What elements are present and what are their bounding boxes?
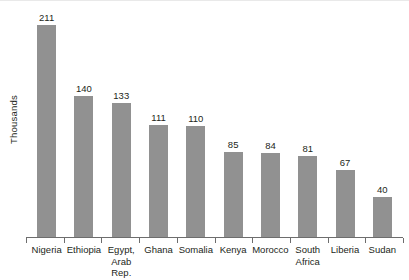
bar-rect[interactable] [373, 197, 392, 237]
x-axis-tick [365, 238, 366, 243]
x-axis-category-label: South Africa [289, 244, 326, 279]
bar-slot[interactable]: 133 [103, 1, 140, 237]
bar-slot[interactable]: 67 [326, 1, 363, 237]
bar-slot[interactable]: 85 [214, 1, 251, 237]
bar-rect[interactable] [37, 25, 56, 237]
x-axis-tick [139, 238, 140, 243]
x-axis-category-label: Nigeria [28, 244, 65, 279]
bar-chart-figure: Thousands 2111401331111108584816740 Nige… [0, 0, 409, 280]
x-axis-tick [290, 238, 291, 243]
bar-rect[interactable] [74, 96, 93, 237]
x-axis-tick [101, 238, 102, 243]
bar-rect[interactable] [298, 156, 317, 237]
x-axis-ticks [26, 238, 403, 243]
bar-value-label: 111 [151, 112, 165, 123]
x-axis-category-label: Morocco [252, 244, 289, 279]
x-axis-tick [252, 238, 253, 243]
bar-rect[interactable] [261, 153, 280, 237]
bar-slot[interactable]: 111 [140, 1, 177, 237]
x-axis-category-label: Kenya [214, 244, 251, 279]
x-axis-category-label: Somalia [177, 244, 214, 279]
bar-value-label: 81 [302, 143, 313, 154]
bar-slot[interactable]: 140 [65, 1, 102, 237]
x-axis-tick [215, 238, 216, 243]
y-axis-title-label: Thousands [8, 95, 19, 144]
bar-value-label: 40 [377, 184, 388, 195]
x-axis-tick [328, 238, 329, 243]
x-axis-tick [177, 238, 178, 243]
bar-slot[interactable]: 110 [177, 1, 214, 237]
x-axis-category-label: Ethiopia [65, 244, 102, 279]
x-axis-category-label: Sudan [364, 244, 401, 279]
bar-slot[interactable]: 40 [364, 1, 401, 237]
bars-row: 2111401331111108584816740 [26, 1, 403, 237]
bar-rect[interactable] [224, 152, 243, 237]
bar-slot[interactable]: 211 [28, 1, 65, 237]
bar-rect[interactable] [149, 125, 168, 237]
bar-value-label: 140 [76, 83, 92, 94]
x-axis-category-label: Liberia [326, 244, 363, 279]
bar-value-label: 211 [39, 12, 54, 23]
bar-value-label: 133 [113, 90, 129, 101]
x-axis-tick [64, 238, 65, 243]
x-axis-tick [26, 238, 27, 243]
bar-rect[interactable] [186, 126, 205, 237]
bar-value-label: 67 [340, 157, 351, 168]
bar-slot[interactable]: 84 [252, 1, 289, 237]
bar-value-label: 85 [228, 139, 239, 150]
bar-value-label: 110 [188, 113, 203, 124]
x-axis-category-label: Ghana [140, 244, 177, 279]
y-axis-title: Thousands [0, 1, 26, 237]
bar-rect[interactable] [336, 170, 355, 237]
x-axis-labels: NigeriaEthiopiaEgypt, Arab Rep.GhanaSoma… [26, 244, 403, 279]
bar-rect[interactable] [112, 103, 131, 237]
x-axis-tick [403, 238, 404, 243]
plot-area: 2111401331111108584816740 [26, 1, 403, 237]
bar-slot[interactable]: 81 [289, 1, 326, 237]
bar-value-label: 84 [265, 140, 276, 151]
x-axis-category-label: Egypt, Arab Rep. [103, 244, 140, 279]
